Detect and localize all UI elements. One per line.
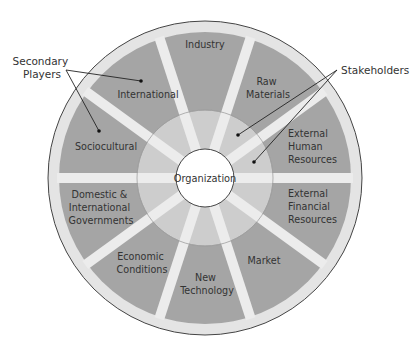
segment-label-industry: Industry xyxy=(185,39,225,50)
callout-secondary-players: Secondary Players xyxy=(13,55,72,80)
pointer-dot-international xyxy=(139,79,143,83)
segment-label-governments: Domestic & International Governments xyxy=(69,189,134,226)
segment-label-sociocultural: Sociocultural xyxy=(75,141,137,152)
pointer-dot-sociocultural xyxy=(97,129,101,133)
segment-label-market: Market xyxy=(248,255,281,266)
pointer-dot-inner-ring-lower xyxy=(252,160,256,164)
center-label-organization: Organization xyxy=(174,173,237,184)
segment-label-external-financial-resources: External Financial Resources xyxy=(288,188,337,225)
organization-environment-diagram: Industry International Sociocultural Dom… xyxy=(0,0,420,350)
segment-label-international: International xyxy=(117,89,178,100)
callout-stakeholders: Stakeholders xyxy=(341,64,409,76)
pointer-dot-inner-ring-upper xyxy=(236,133,240,137)
